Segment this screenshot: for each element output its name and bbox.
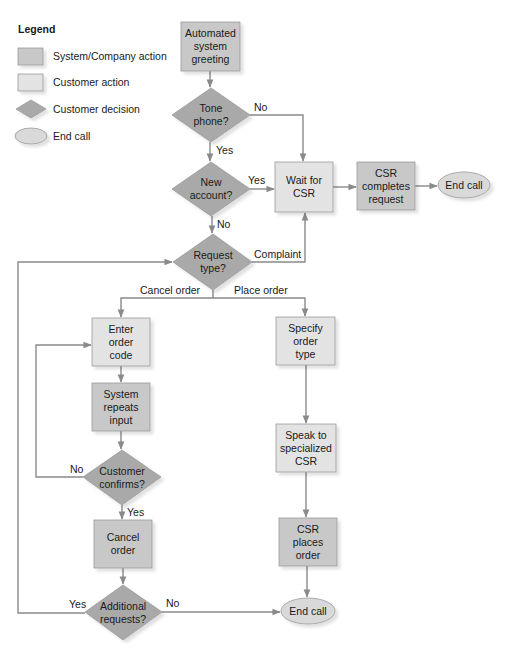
svg-text:CSR: CSR xyxy=(297,523,320,535)
svg-text:End call: End call xyxy=(445,179,482,191)
svg-text:Speak to: Speak to xyxy=(285,429,327,441)
label-tone-yes: Yes xyxy=(216,144,233,156)
flowchart: Legend System/Company action Customer ac… xyxy=(0,0,513,658)
legend-label-end-call: End call xyxy=(53,130,90,142)
svg-text:order: order xyxy=(296,549,321,561)
svg-text:input: input xyxy=(110,414,133,426)
legend-decision-diamond-icon xyxy=(16,100,46,118)
svg-text:Customer: Customer xyxy=(99,465,145,477)
svg-text:Wait for: Wait for xyxy=(286,174,322,186)
svg-text:specialized: specialized xyxy=(280,442,332,454)
svg-text:confirms?: confirms? xyxy=(99,478,145,490)
svg-text:places: places xyxy=(293,536,323,548)
legend-label-customer-decision: Customer decision xyxy=(53,103,140,115)
node-end-call-bottom: End call xyxy=(281,598,335,624)
legend-system-action-icon xyxy=(18,48,43,65)
node-tone-phone-decision: Tone phone? xyxy=(172,88,250,142)
label-additional-yes: Yes xyxy=(69,598,86,610)
edge-place-order-branch xyxy=(213,298,305,316)
node-additional-requests-decision: Additional requests? xyxy=(85,585,162,640)
svg-text:order: order xyxy=(111,544,136,556)
svg-text:type?: type? xyxy=(200,262,226,274)
node-wait-for-csr: Wait for CSR xyxy=(275,162,333,212)
label-place-order: Place order xyxy=(234,284,288,296)
node-system-repeats-input: System repeats input xyxy=(92,383,150,431)
edge-tone-no-to-wait xyxy=(250,115,303,161)
svg-text:completes: completes xyxy=(362,180,410,192)
legend-label-customer-action: Customer action xyxy=(53,76,130,88)
legend-customer-action-icon xyxy=(18,74,43,91)
node-csr-places-order: CSR places order xyxy=(279,518,337,566)
node-csr-completes-request: CSR completes request xyxy=(357,162,415,210)
legend: Legend System/Company action Customer ac… xyxy=(15,23,167,144)
label-new-yes: Yes xyxy=(248,174,265,186)
node-enter-order-code: Enter order code xyxy=(92,318,150,366)
svg-text:CSR: CSR xyxy=(375,167,398,179)
svg-text:account?: account? xyxy=(190,189,233,201)
node-request-type-decision: Request type? xyxy=(173,234,252,290)
svg-text:system: system xyxy=(194,40,228,52)
svg-text:type: type xyxy=(296,348,316,360)
label-confirms-yes: Yes xyxy=(127,506,144,518)
svg-text:End call: End call xyxy=(289,605,326,617)
label-confirms-no: No xyxy=(70,463,84,475)
svg-text:CSR: CSR xyxy=(295,455,318,467)
svg-text:phone?: phone? xyxy=(193,115,228,127)
svg-text:System: System xyxy=(103,388,138,400)
svg-text:CSR: CSR xyxy=(293,187,316,199)
svg-text:Tone: Tone xyxy=(200,102,223,114)
node-cancel-order: Cancel order xyxy=(94,520,152,568)
svg-text:request: request xyxy=(368,193,403,205)
label-complaint: Complaint xyxy=(254,248,301,260)
label-new-no: No xyxy=(217,218,231,230)
node-customer-confirms-decision: Customer confirms? xyxy=(83,450,161,505)
svg-text:Cancel: Cancel xyxy=(107,531,140,543)
svg-text:Specify: Specify xyxy=(288,322,323,334)
svg-text:Enter: Enter xyxy=(108,323,134,335)
svg-text:order: order xyxy=(109,336,134,348)
svg-text:Automated: Automated xyxy=(185,27,236,39)
legend-end-call-ellipse-icon xyxy=(15,128,47,144)
svg-text:requests?: requests? xyxy=(100,613,146,625)
edge-confirms-no-to-enter xyxy=(36,345,91,477)
svg-text:code: code xyxy=(110,349,133,361)
svg-text:Additional: Additional xyxy=(100,600,146,612)
svg-text:repeats: repeats xyxy=(103,401,138,413)
label-additional-no: No xyxy=(166,597,180,609)
label-tone-no: No xyxy=(254,101,268,113)
svg-text:greeting: greeting xyxy=(192,53,230,65)
node-new-account-decision: New account? xyxy=(172,162,250,216)
node-automated-system-greeting: Automated system greeting xyxy=(181,22,240,71)
svg-text:order: order xyxy=(293,335,318,347)
node-specify-order-type: Specify order type xyxy=(276,317,335,365)
svg-text:Request: Request xyxy=(193,249,232,261)
legend-label-system-action: System/Company action xyxy=(53,50,167,62)
node-speak-to-specialized-csr: Speak to specialized CSR xyxy=(276,424,336,472)
node-end-call-top: End call xyxy=(438,172,490,198)
svg-text:New: New xyxy=(200,176,221,188)
legend-title: Legend xyxy=(18,23,55,35)
label-cancel-order: Cancel order xyxy=(140,284,201,296)
